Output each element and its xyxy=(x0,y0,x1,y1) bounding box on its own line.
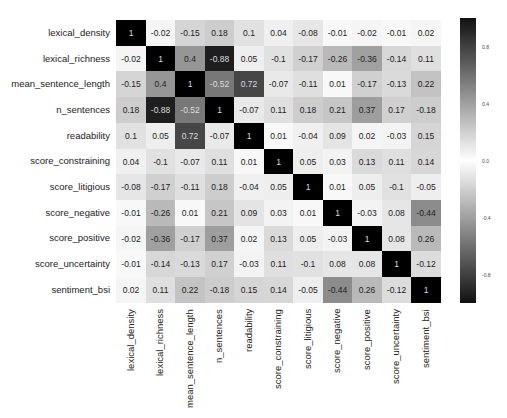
heatmap-cell: -0.52 xyxy=(205,71,235,97)
y-tick-label: score_uncertainty xyxy=(35,258,110,269)
heatmap-cell: 0.01 xyxy=(264,123,294,149)
heatmap-cell: 0.22 xyxy=(175,277,205,303)
y-tick-label: mean_sentence_length xyxy=(11,78,110,89)
heatmap-cell: 0.01 xyxy=(323,71,353,97)
heatmap-cell: 0.09 xyxy=(234,200,264,226)
y-tick-label: lexical_richness xyxy=(43,53,110,64)
heatmap-cell: 0.08 xyxy=(382,226,412,252)
heatmap-cell: 0.37 xyxy=(205,226,235,252)
heatmap-cell: 0.11 xyxy=(205,149,235,175)
heatmap-cell: 0.11 xyxy=(146,277,176,303)
heatmap-cell: 0.11 xyxy=(264,251,294,277)
heatmap-cell: 0.13 xyxy=(352,149,382,175)
heatmap-cell: 1 xyxy=(352,226,382,252)
heatmap-cell: 1 xyxy=(205,97,235,123)
x-tick-label: lexical_density xyxy=(125,309,136,371)
heatmap-cell: 0.08 xyxy=(352,251,382,277)
heatmap-cell: -0.44 xyxy=(411,200,441,226)
heatmap-cell: -0.01 xyxy=(116,251,146,277)
heatmap-cell: 0.09 xyxy=(323,123,353,149)
heatmap-cell: -0.03 xyxy=(382,123,412,149)
heatmap-cell: 0.21 xyxy=(205,200,235,226)
heatmap-cell: 0.17 xyxy=(382,97,412,123)
heatmap-cell: -0.15 xyxy=(175,20,205,46)
heatmap-cell: -0.12 xyxy=(382,277,412,303)
heatmap-cell: -0.11 xyxy=(175,174,205,200)
heatmap-cell: -0.36 xyxy=(352,46,382,72)
heatmap-cell: -0.04 xyxy=(234,174,264,200)
y-tick-label: lexical_density xyxy=(48,27,110,38)
heatmap-cell: -0.01 xyxy=(382,20,412,46)
heatmap-cell: -0.03 xyxy=(323,226,353,252)
heatmap-cell: -0.88 xyxy=(146,97,176,123)
heatmap-cell: 0.05 xyxy=(234,46,264,72)
heatmap-cell: -0.1 xyxy=(264,46,294,72)
heatmap-cell: -0.17 xyxy=(293,46,323,72)
heatmap-cell: -0.14 xyxy=(382,46,412,72)
heatmap-cell: 0.4 xyxy=(146,71,176,97)
heatmap-cell: 0.72 xyxy=(175,123,205,149)
x-tick-label: sentiment_bsi xyxy=(420,309,431,368)
x-tick-label: score_negative xyxy=(331,308,342,372)
heatmap-cell: 0.18 xyxy=(205,174,235,200)
y-tick-label: score_constraining xyxy=(30,155,110,166)
heatmap-cell: 0.18 xyxy=(205,20,235,46)
heatmap-cell: 0.26 xyxy=(411,226,441,252)
heatmap-cell: 0.04 xyxy=(264,20,294,46)
heatmap-cell: 0.15 xyxy=(411,123,441,149)
heatmap-cell: -0.17 xyxy=(146,174,176,200)
heatmap-cell: -0.18 xyxy=(411,97,441,123)
heatmap-cell: 1 xyxy=(234,123,264,149)
heatmap-cell: 1 xyxy=(116,20,146,46)
heatmap-cell: -0.08 xyxy=(293,20,323,46)
heatmap-cell: -0.88 xyxy=(205,46,235,72)
heatmap-cell: 0.05 xyxy=(352,174,382,200)
heatmap-cell: 0.13 xyxy=(264,226,294,252)
heatmap-cell: -0.1 xyxy=(146,149,176,175)
x-tick-label: score_litigious xyxy=(302,308,313,368)
heatmap-cell: -0.36 xyxy=(146,226,176,252)
heatmap-cell: 0.02 xyxy=(116,277,146,303)
heatmap-cell: -0.07 xyxy=(264,71,294,97)
colorbar-tick-label: 0.0 xyxy=(482,158,489,164)
x-tick-label: score_constraining xyxy=(272,309,283,389)
heatmap-cell: 0.15 xyxy=(234,277,264,303)
heatmap-cell: -0.03 xyxy=(352,200,382,226)
heatmap-cell: -0.11 xyxy=(293,71,323,97)
colorbar-gradient xyxy=(460,18,476,303)
heatmap-cell: 0.18 xyxy=(293,97,323,123)
heatmap-cell: 0.05 xyxy=(293,149,323,175)
heatmap-cell: -0.02 xyxy=(116,46,146,72)
heatmap-cell: 0.11 xyxy=(264,97,294,123)
heatmap-cell: -0.07 xyxy=(234,97,264,123)
y-tick-label: sentiment_bsi xyxy=(51,284,110,295)
heatmap-cell: -0.02 xyxy=(352,20,382,46)
heatmap-cell: -0.26 xyxy=(323,46,353,72)
heatmap-cell: 1 xyxy=(146,46,176,72)
x-tick-label: score_positive xyxy=(361,309,372,370)
heatmap-cell: -0.07 xyxy=(205,123,235,149)
heatmap-cell: 0.04 xyxy=(116,149,146,175)
colorbar-tick-label: 0.4 xyxy=(482,101,489,107)
x-tick-label: readability xyxy=(243,308,254,351)
heatmap-cell: 0.18 xyxy=(116,97,146,123)
heatmap-cell: 0.17 xyxy=(205,251,235,277)
heatmap-cell: -0.07 xyxy=(175,149,205,175)
heatmap-cell: 0.01 xyxy=(323,174,353,200)
y-tick-label: readability xyxy=(67,130,110,141)
x-tick-label: lexical_richness xyxy=(154,309,165,376)
heatmap-cell: 0.21 xyxy=(323,97,353,123)
heatmap-cell: 1 xyxy=(264,149,294,175)
heatmap-cell: 0.37 xyxy=(352,97,382,123)
heatmap-cell: 0.08 xyxy=(382,200,412,226)
heatmap-cell: -0.13 xyxy=(175,251,205,277)
heatmap-cell: -0.26 xyxy=(146,200,176,226)
heatmap-cell: 0.01 xyxy=(234,149,264,175)
heatmap-cell: -0.01 xyxy=(323,20,353,46)
heatmap-cell: 0.05 xyxy=(146,123,176,149)
heatmap-cell: -0.18 xyxy=(205,277,235,303)
heatmap-cell: 0.01 xyxy=(293,200,323,226)
heatmap-cell: 0.02 xyxy=(234,226,264,252)
heatmap-cell: -0.44 xyxy=(323,277,353,303)
heatmap-cell: -0.14 xyxy=(146,251,176,277)
